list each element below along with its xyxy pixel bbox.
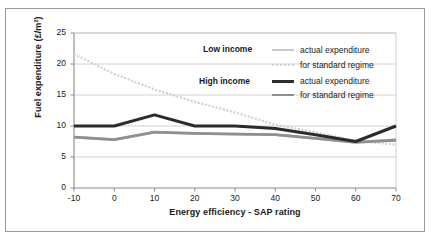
- x-tick-label: -10: [59, 193, 89, 203]
- x-tick-label: 40: [260, 193, 290, 203]
- x-tick-label: 60: [341, 193, 371, 203]
- x-tick-label: 20: [180, 193, 210, 203]
- figure-root: Fuel expenditure (£/m²) Energy efficienc…: [0, 0, 432, 241]
- x-axis-title: Energy efficiency - SAP rating: [60, 207, 410, 217]
- legend-label: for standard regime: [300, 60, 374, 70]
- x-tick-label: 50: [301, 193, 331, 203]
- y-tick-label: 10: [44, 120, 66, 130]
- y-tick-label: 15: [44, 89, 66, 99]
- x-tick-label: 30: [220, 193, 250, 203]
- legend-swatch: [272, 49, 294, 51]
- legend-label: actual expenditure: [300, 76, 369, 86]
- y-tick-label: 25: [44, 27, 66, 37]
- x-tick-label: 70: [381, 193, 411, 203]
- group-label-low-income: Low income: [203, 44, 252, 54]
- legend-label: for standard regime: [300, 90, 374, 100]
- x-tick-label: 10: [140, 193, 170, 203]
- y-tick-label: 0: [44, 182, 66, 192]
- y-axis-title: Fuel expenditure (£/m²): [33, 2, 43, 132]
- y-tick-label: 20: [44, 58, 66, 68]
- y-tick-label: 5: [44, 151, 66, 161]
- legend-swatch: [272, 80, 294, 83]
- legend-swatch: [272, 94, 294, 96]
- group-label-high-income: High income: [199, 76, 250, 86]
- legend-swatch: [272, 64, 294, 66]
- legend-label: actual expenditure: [300, 45, 369, 55]
- x-tick-label: 0: [99, 193, 129, 203]
- chart-canvas: Fuel expenditure (£/m²) Energy efficienc…: [0, 0, 432, 241]
